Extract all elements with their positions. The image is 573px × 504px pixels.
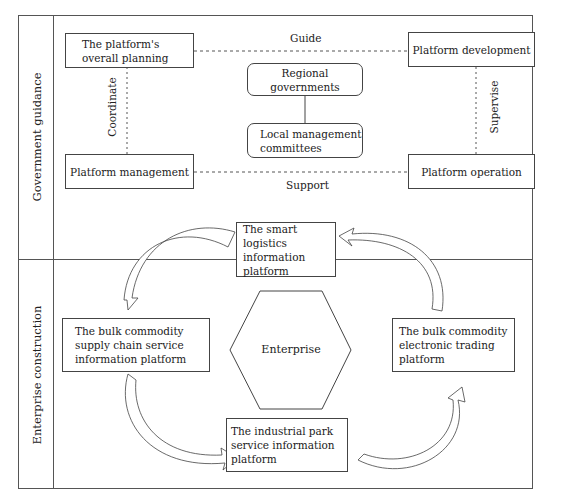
node-smart-logistics-label: The smart logistics information platform <box>243 222 335 278</box>
node-overall-planning-label: The platform's overall planning <box>80 37 193 65</box>
node-platform-management: Platform management <box>65 154 194 189</box>
node-platform-operation-label: Platform operation <box>421 165 522 179</box>
node-trading: The bulk commodity electronic trading pl… <box>392 318 515 372</box>
arrow-industrialpark-to-trading <box>358 387 465 469</box>
node-local-committees-label: Local management committees <box>260 127 362 155</box>
node-supply-chain-label: The bulk commodity supply chain service … <box>75 324 209 366</box>
node-overall-planning: The platform's overall planning <box>65 33 194 68</box>
node-industrial-park: The industrial park service information … <box>226 418 348 472</box>
edge-label-guide: Guide <box>290 32 321 44</box>
edge-label-supervise: Supervise <box>488 77 500 137</box>
arrow-logistics-to-supplychain <box>124 228 235 310</box>
node-local-committees: Local management committees <box>247 123 363 158</box>
node-industrial-park-label: The industrial park service information … <box>231 424 347 466</box>
node-platform-development: Platform development <box>408 32 535 67</box>
edge-label-coordinate: Coordinate <box>106 77 118 137</box>
node-regional-governments-label: Regional governments <box>248 66 362 94</box>
node-platform-operation: Platform operation <box>408 154 535 189</box>
node-platform-management-label: Platform management <box>70 165 189 179</box>
node-platform-development-label: Platform development <box>412 43 530 57</box>
node-trading-label: The bulk commodity electronic trading pl… <box>399 324 514 366</box>
node-regional-governments: Regional governments <box>247 63 363 96</box>
arrow-trading-to-logistics <box>339 228 443 311</box>
node-smart-logistics: The smart logistics information platform <box>236 222 336 277</box>
enterprise-center-label: Enterprise <box>241 343 341 356</box>
arrow-supplychain-to-industrialpark <box>125 374 237 470</box>
edge-label-support: Support <box>286 179 329 191</box>
node-supply-chain: The bulk commodity supply chain service … <box>62 318 210 372</box>
